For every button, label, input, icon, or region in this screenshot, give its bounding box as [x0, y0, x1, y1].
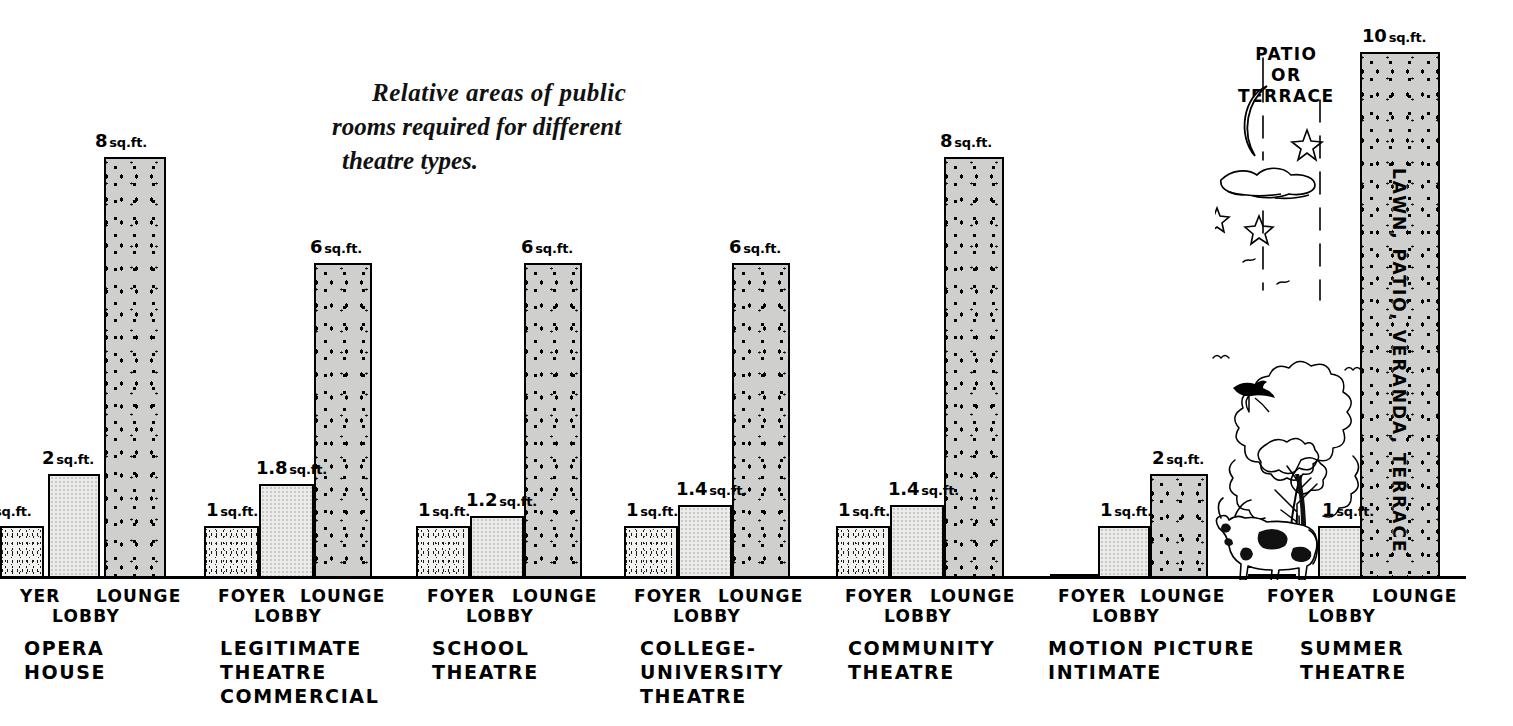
bar-legitimate-theatre-lobby — [259, 484, 314, 579]
value-label-summer-theatre-lounge: 10sq.ft. — [1362, 25, 1426, 46]
value-label-community-theatre-foyer: 1sq.ft. — [838, 499, 890, 520]
part-label-community-theatre-lobby: LOBBY — [884, 606, 952, 626]
chart-baseline — [0, 576, 1466, 579]
bars-layer — [0, 0, 1513, 579]
value-label-legitimate-theatre-lobby: 1.8sq.ft. — [256, 457, 327, 478]
group-caption-line: SCHOOL — [432, 636, 539, 660]
group-caption-motion-picture-intimate: MOTION PICTUREINTIMATE — [1048, 636, 1255, 684]
bar-motion-picture-intimate-lounge — [1150, 474, 1208, 579]
part-label-college-university-theatre-lobby: LOBBY — [673, 606, 741, 626]
value-label-community-theatre-lobby: 1.4sq.ft. — [888, 478, 959, 499]
bar-opera-house-lounge — [104, 157, 166, 579]
part-label-school-theatre-lounge: LOUNGE — [512, 586, 597, 606]
bar-school-theatre-lobby — [470, 516, 524, 579]
group-caption-line: COLLEGE- — [640, 636, 784, 660]
group-caption-opera-house: OPERAHOUSE — [24, 636, 106, 684]
bar-college-university-theatre-foyer — [624, 526, 678, 579]
bar-legitimate-theatre-foyer — [204, 526, 259, 579]
group-caption-summer-theatre: SUMMERTHEATRE — [1300, 636, 1407, 684]
group-caption-line: UNIVERSITY — [640, 660, 784, 684]
bar-school-theatre-lounge — [524, 263, 582, 579]
group-caption-line: SUMMER — [1300, 636, 1407, 660]
part-label-summer-theatre-lounge: LOUNGE — [1372, 586, 1457, 606]
part-label-motion-picture-intimate-foyer: FOYER — [1058, 586, 1126, 606]
part-label-motion-picture-intimate-lounge: LOUNGE — [1140, 586, 1225, 606]
group-caption-line: THEATRE — [220, 660, 379, 684]
group-caption-line: COMMERCIAL — [220, 684, 379, 708]
bar-school-theatre-foyer — [416, 526, 470, 579]
group-caption-line: THEATRE — [848, 660, 995, 684]
part-label-opera-house-lobby: LOBBY — [52, 606, 120, 626]
group-caption-community-theatre: COMMUNITYTHEATRE — [848, 636, 995, 684]
group-caption-line: THEATRE — [1300, 660, 1407, 684]
bar-community-theatre-foyer — [836, 526, 890, 579]
part-label-opera-house-lounge: LOUNGE — [96, 586, 181, 606]
value-label-opera-house-lounge: 8sq.ft. — [95, 130, 147, 151]
value-label-opera-house-lobby: 2sq.ft. — [42, 447, 94, 468]
part-label-school-theatre-lobby: LOBBY — [466, 606, 534, 626]
part-label-legitimate-theatre-lounge: LOUNGE — [300, 586, 385, 606]
value-label-school-theatre-foyer: 1sq.ft. — [418, 499, 470, 520]
group-caption-line: COMMUNITY — [848, 636, 995, 660]
part-label-community-theatre-lounge: LOUNGE — [930, 586, 1015, 606]
part-label-college-university-theatre-foyer: FOYER — [634, 586, 702, 606]
part-label-legitimate-theatre-lobby: LOBBY — [254, 606, 322, 626]
value-label-opera-house-foyer: sq.ft. — [0, 499, 32, 520]
summer-lounge-vertical-label: LAWN, PATIO, VERANDA, TERRACE — [1389, 168, 1409, 554]
value-label-college-university-theatre-foyer: 1sq.ft. — [626, 499, 678, 520]
group-caption-line: THEATRE — [640, 684, 784, 708]
bar-opera-house-lobby — [48, 474, 100, 579]
value-label-legitimate-theatre-foyer: 1sq.ft. — [206, 499, 258, 520]
group-caption-line: HOUSE — [24, 660, 106, 684]
value-label-motion-picture-intimate-lobby: 1sq.ft. — [1100, 499, 1152, 520]
value-label-college-university-theatre-lobby: 1.4sq.ft. — [676, 478, 747, 499]
part-label-school-theatre-foyer: FOYER — [427, 586, 495, 606]
value-label-community-theatre-lounge: 8sq.ft. — [940, 130, 992, 151]
part-label-summer-theatre-foyer: FOYER — [1267, 586, 1335, 606]
value-label-school-theatre-lounge: 6sq.ft. — [521, 236, 573, 257]
bar-legitimate-theatre-lounge — [314, 263, 372, 579]
value-label-school-theatre-lobby: 1.2sq.ft. — [466, 489, 537, 510]
bar-community-theatre-lobby — [890, 505, 944, 579]
part-label-motion-picture-intimate-lobby: LOBBY — [1092, 606, 1160, 626]
group-caption-legitimate-theatre: LEGITIMATETHEATRECOMMERCIAL — [220, 636, 379, 708]
group-caption-line: LEGITIMATE — [220, 636, 379, 660]
bar-college-university-theatre-lobby — [678, 505, 732, 579]
value-label-legitimate-theatre-lounge: 6sq.ft. — [310, 236, 362, 257]
chart-canvas: Relative areas of public rooms required … — [0, 0, 1513, 726]
bar-community-theatre-lounge — [944, 157, 1004, 579]
value-label-summer-theatre-lobby: 1sq.ft. — [1322, 499, 1374, 520]
bar-college-university-theatre-lounge — [732, 263, 790, 579]
part-label-opera-house-foyer: YER — [20, 586, 61, 606]
bar-opera-house-foyer — [0, 526, 44, 579]
part-label-community-theatre-foyer: FOYER — [845, 586, 913, 606]
group-caption-school-theatre: SCHOOLTHEATRE — [432, 636, 539, 684]
group-caption-line: OPERA — [24, 636, 106, 660]
value-label-college-university-theatre-lounge: 6sq.ft. — [729, 236, 781, 257]
group-caption-college-university-theatre: COLLEGE-UNIVERSITYTHEATRE — [640, 636, 784, 708]
part-label-summer-theatre-lobby: LOBBY — [1308, 606, 1376, 626]
group-caption-line: MOTION PICTURE — [1048, 636, 1255, 660]
group-caption-line: THEATRE — [432, 660, 539, 684]
bar-motion-picture-intimate-lobby — [1098, 526, 1150, 579]
value-label-motion-picture-intimate-lounge: 2sq.ft. — [1152, 447, 1204, 468]
group-caption-line: INTIMATE — [1048, 660, 1255, 684]
part-label-legitimate-theatre-foyer: FOYER — [218, 586, 286, 606]
part-label-college-university-theatre-lounge: LOUNGE — [718, 586, 803, 606]
